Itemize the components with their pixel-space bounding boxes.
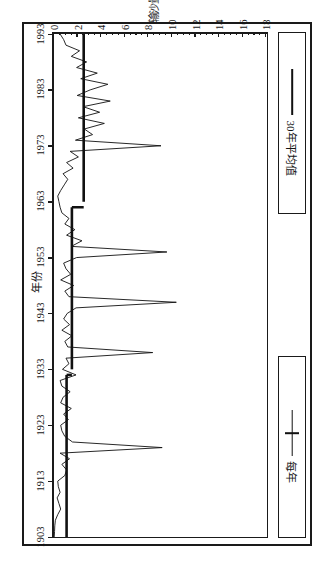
year-tick-1973 — [48, 145, 54, 146]
value-tick-3 — [88, 32, 89, 35]
year-tick-1963 — [48, 201, 54, 202]
value-tick-5.5 — [118, 32, 119, 35]
value-tick-17 — [253, 32, 254, 35]
year-tick-label-1963: 1963 — [35, 191, 46, 212]
value-tick-7.5 — [141, 32, 142, 35]
value-tick-6 — [124, 32, 125, 37]
year-tick-1933 — [48, 369, 54, 370]
value-tick-label-16: 16 — [237, 20, 248, 31]
year-tick-label-1973: 1973 — [35, 135, 46, 156]
year-tick-label-1943: 1943 — [35, 303, 46, 324]
year-tick-label-1923: 1923 — [35, 414, 46, 435]
value-tick-10.5 — [177, 32, 178, 35]
figure-outer-frame: 30年平均值 每年 19031913 — [22, 22, 312, 546]
value-tick-8 — [147, 32, 148, 37]
value-tick-13 — [206, 32, 207, 35]
value-tick-2 — [76, 32, 77, 37]
value-tick-4 — [100, 32, 101, 37]
value-tick-label-4: 4 — [96, 25, 107, 30]
value-tick-14.5 — [224, 32, 225, 35]
year-tick-1953 — [48, 257, 54, 258]
value-tick-11.5 — [189, 32, 190, 35]
value-tick-1.5 — [71, 32, 72, 35]
year-tick-label-1933: 1933 — [35, 358, 46, 379]
value-tick-14 — [218, 32, 219, 37]
value-tick-15 — [230, 32, 231, 35]
value-tick-16.5 — [248, 32, 249, 35]
value-tick-11 — [183, 32, 184, 35]
value-tick-9.5 — [165, 32, 166, 35]
value-tick-15.5 — [236, 32, 237, 35]
year-tick-1903 — [48, 537, 54, 538]
value-tick-label-6: 6 — [119, 25, 130, 30]
value-tick-label-10: 10 — [167, 20, 178, 31]
value-tick-0 — [53, 32, 54, 37]
year-tick-label-1993: 1993 — [35, 23, 46, 44]
legend-swatch-annual — [285, 410, 299, 456]
value-tick-label-14: 14 — [214, 20, 225, 31]
value-tick-9 — [159, 32, 160, 35]
value-tick-label-18: 18 — [261, 20, 272, 31]
value-tick-12 — [194, 32, 195, 37]
value-tick-8.5 — [153, 32, 154, 35]
rotated-chart-host: 30年平均值 每年 19031913 — [24, 24, 314, 548]
year-tick-label-1903: 1903 — [35, 526, 46, 547]
value-tick-12.5 — [200, 32, 201, 35]
legend-box-annual: 每年 — [278, 356, 306, 538]
legend-swatch-30yr-average — [285, 69, 299, 115]
year-tick-label-1913: 1913 — [35, 470, 46, 491]
value-tick-label-8: 8 — [143, 25, 154, 30]
legend-box-30yr-average: 30年平均值 — [278, 32, 306, 214]
series-line-30yr-average — [67, 34, 84, 537]
year-tick-1983 — [48, 89, 54, 90]
chart-canvas: 30年平均值 每年 19031913 — [26, 26, 312, 546]
year-tick-label-1953: 1953 — [35, 247, 46, 268]
value-tick-label-2: 2 — [72, 25, 83, 30]
value-tick-18 — [265, 32, 266, 37]
value-tick-17.5 — [259, 32, 260, 35]
value-tick-16 — [242, 32, 243, 37]
value-tick-1 — [65, 32, 66, 35]
year-tick-1943 — [48, 313, 54, 314]
year-tick-1913 — [48, 481, 54, 482]
series-svg — [54, 34, 266, 537]
value-tick-13.5 — [212, 32, 213, 35]
value-tick-6.5 — [130, 32, 131, 35]
plot-area — [54, 34, 266, 537]
value-tick-7 — [135, 32, 136, 35]
value-tick-4.5 — [106, 32, 107, 35]
value-tick-0.5 — [59, 32, 60, 35]
value-tick-label-12: 12 — [190, 20, 201, 31]
value-tick-10 — [171, 32, 172, 37]
value-tick-2.5 — [82, 32, 83, 35]
year-tick-label-1983: 1983 — [35, 79, 46, 100]
legend-label-30yr-average: 30年平均值 — [284, 120, 300, 176]
x-axis-title: 年份 — [28, 271, 44, 293]
y-axis-title: 输沙量/10⁴t — [145, 0, 161, 23]
value-tick-5 — [112, 32, 113, 35]
value-tick-label-0: 0 — [49, 25, 60, 30]
year-tick-1923 — [48, 425, 54, 426]
value-tick-3.5 — [94, 32, 95, 35]
legend-label-annual: 每年 — [284, 461, 300, 483]
